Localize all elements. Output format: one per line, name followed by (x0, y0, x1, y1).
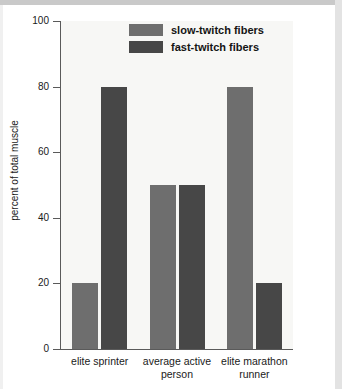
y-tick-label: 0 (0, 344, 49, 354)
y-tick-mark (53, 21, 60, 22)
scan-edge-right (335, 0, 342, 389)
x-axis-line (60, 349, 293, 350)
y-tick-mark (53, 218, 60, 219)
category-label-line: elite marathon (216, 355, 293, 368)
y-tick-label: 100 (0, 16, 49, 26)
y-tick-mark (53, 283, 60, 284)
bar (227, 87, 253, 349)
y-tick-label: 80 (0, 82, 49, 92)
chart-legend: slow-twitch fibersfast-twitch fibers (129, 22, 264, 56)
category-label-line: average active (138, 355, 215, 368)
category-label-line: runner (216, 368, 293, 381)
legend-swatch (129, 24, 163, 36)
y-axis-label: percent of total muscle (9, 116, 20, 226)
category-label-line: elite sprinter (61, 355, 138, 368)
scan-edge-left (0, 5, 3, 389)
y-tick-label: 60 (0, 147, 49, 157)
y-tick-mark (53, 87, 60, 88)
bars-layer (61, 21, 293, 349)
y-tick-mark (53, 152, 60, 153)
category-label: elite sprinter (61, 355, 138, 368)
category-label: elite marathonrunner (216, 355, 293, 381)
x-axis-category-labels: elite sprinteraverage activepersonelite … (61, 355, 293, 389)
legend-label: slow-twitch fibers (171, 24, 264, 36)
bar (150, 185, 176, 349)
category-label-line: person (138, 368, 215, 381)
bar (179, 185, 205, 349)
bar (256, 283, 282, 349)
y-tick-label: 20 (0, 278, 49, 288)
bar-chart-figure: 020406080100 percent of total muscle slo… (0, 0, 342, 389)
scan-edge-top (0, 0, 342, 5)
legend-label: fast-twitch fibers (171, 41, 259, 53)
legend-swatch (129, 41, 163, 53)
bar (101, 87, 127, 349)
y-tick-mark (53, 349, 60, 350)
category-label: average activeperson (138, 355, 215, 381)
bar (72, 283, 98, 349)
legend-item: slow-twitch fibers (129, 22, 264, 37)
y-tick-label: 40 (0, 213, 49, 223)
legend-item: fast-twitch fibers (129, 39, 264, 54)
